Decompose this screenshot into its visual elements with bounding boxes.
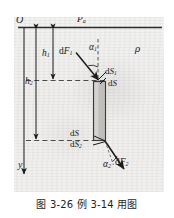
depth-h1-label: h1 — [42, 49, 50, 59]
force-dF1-arrow — [76, 53, 99, 81]
y-axis-label: y — [18, 160, 22, 170]
surface-pressure-label: Pa — [77, 17, 86, 25]
plate-highlight — [95, 83, 99, 140]
force-dF1-label: dF1 — [59, 47, 73, 57]
physics-diagram: O y Pa ρ h1 h2 dF1 α1 dS1 dS dS — [14, 17, 164, 192]
angle-alpha2-label: α2 — [103, 160, 111, 170]
angle-alpha1-arc — [89, 65, 99, 67]
area-dS1-label: dS1 — [105, 67, 117, 77]
dS2-tick — [93, 142, 106, 146]
depth-h2-label: h2 — [25, 77, 33, 87]
area-dS2-label: dS2 — [70, 140, 82, 150]
figure-caption: 图 3-26 例 3-14 用图 — [0, 196, 174, 211]
area-dS-bottom-label: dS — [70, 129, 79, 138]
force-dF2-label: dF2 — [115, 158, 129, 168]
figure-page: O y Pa ρ h1 h2 dF1 α1 dS1 dS dS — [0, 0, 174, 218]
area-dS-top-label: dS — [108, 79, 117, 88]
origin-label: O — [16, 17, 23, 25]
angle-alpha1-label: α1 — [89, 43, 97, 53]
density-label: ρ — [135, 43, 140, 54]
